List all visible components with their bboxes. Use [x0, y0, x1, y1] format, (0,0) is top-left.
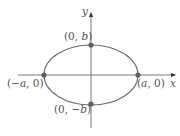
y-axis-label: y [81, 5, 89, 17]
x-axis-label: x [170, 77, 176, 89]
label-bottom: (0, −b) [54, 103, 91, 115]
label-left: (−a, 0) [7, 77, 44, 89]
point-top [88, 42, 93, 47]
label-top: (0, b) [64, 30, 92, 42]
label-right: (a, 0) [137, 77, 165, 89]
ellipse-diagram: y x (0, b) (−a, 0) (a, 0) (0, −b) [0, 0, 180, 136]
